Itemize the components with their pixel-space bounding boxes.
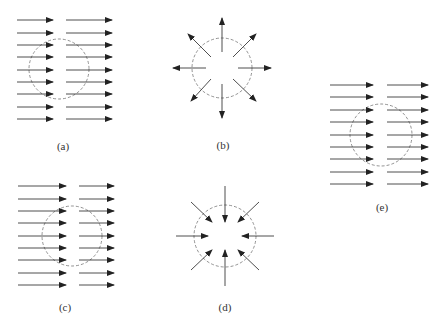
dashed-circle <box>29 39 89 99</box>
right-arrows <box>79 186 114 285</box>
left-arrows <box>17 20 53 119</box>
outward-arrows <box>173 18 271 118</box>
panel-label: (b) <box>217 139 230 152</box>
inward-arrows <box>176 186 274 286</box>
panel-label: (e) <box>376 201 389 214</box>
panel-a: (a) <box>17 20 112 153</box>
panel-label: (c) <box>59 301 72 314</box>
panel-e: (e) <box>330 85 428 214</box>
panel-c: (c) <box>18 186 114 314</box>
left-arrows <box>330 85 373 184</box>
left-arrows <box>18 186 66 285</box>
panel-b: (b) <box>173 18 271 152</box>
right-arrows <box>387 85 428 184</box>
diagram-canvas: (a) (b) <box>0 0 441 323</box>
panel-d: (d) <box>176 186 274 314</box>
panel-label: (a) <box>57 140 70 153</box>
panel-label: (d) <box>219 301 232 314</box>
